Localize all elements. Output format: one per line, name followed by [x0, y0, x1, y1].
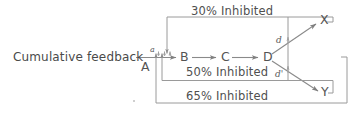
rate-label-a: a: [150, 46, 155, 54]
node-label-y: Y: [321, 86, 329, 99]
node-label-d: D: [263, 51, 273, 64]
inhibition-label-bottom: 65% Inhibited: [186, 91, 268, 103]
node-label-a: A: [141, 61, 150, 74]
node-label-x: X: [320, 14, 329, 27]
node-label-c: C: [221, 51, 230, 64]
node-label-b: B: [180, 51, 189, 64]
inhibition-label-top: 30% Inhibited: [191, 6, 273, 18]
rate-label-d: d: [276, 36, 282, 45]
inhibition-label-middle: 50% Inhibited: [186, 67, 268, 79]
rate-label-d-prime: d': [275, 70, 283, 79]
pathway-diagram: Cumulative feedback A B C D X Y a d d' 3…: [0, 0, 355, 117]
feedback-loop-30-percent: [167, 17, 333, 54]
feedback-path-30: [167, 17, 333, 54]
scan-speck: [133, 100, 135, 102]
cumulative-feedback-label: Cumulative feedback: [13, 51, 143, 63]
rate-tick-marks-a: [159, 52, 171, 57]
